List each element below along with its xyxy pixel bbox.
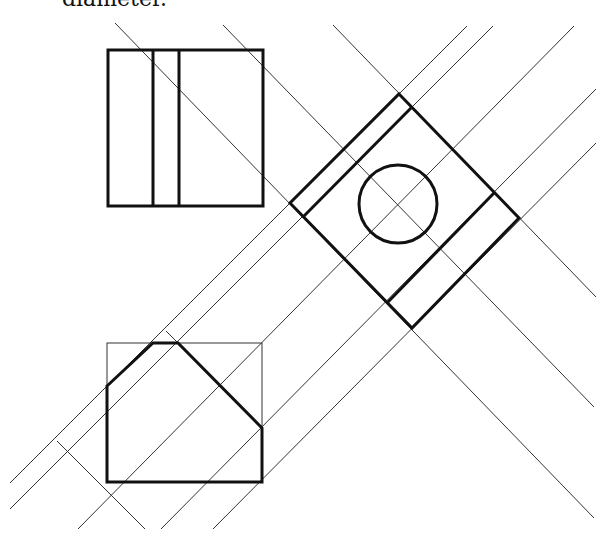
projection-line xyxy=(213,143,596,529)
projection-line xyxy=(166,331,178,343)
projection-line xyxy=(223,25,594,407)
front-view xyxy=(108,50,263,206)
orthographic-drawing xyxy=(0,0,615,535)
projection-line xyxy=(161,89,596,529)
projection-lines xyxy=(10,23,596,529)
aux-inner-edge xyxy=(387,193,494,303)
top-profile xyxy=(107,343,262,482)
projection-line xyxy=(57,441,145,529)
top-view xyxy=(107,343,262,482)
front-outline xyxy=(108,50,263,206)
